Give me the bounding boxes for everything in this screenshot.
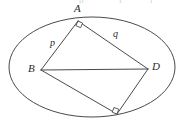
top-crumb-2: i — [119, 0, 122, 5]
vertex-label-d: D — [152, 61, 160, 72]
edge-bc — [41, 70, 117, 114]
diagonal-bd — [41, 69, 148, 70]
top-crumb-3: i — [150, 0, 153, 5]
side-label-q: q — [113, 29, 118, 39]
edge-cd — [117, 69, 148, 114]
geometry-figure: b i i A B D p q — [0, 0, 182, 127]
vertex-label-a: A — [74, 3, 81, 14]
edge-ab — [41, 21, 78, 70]
vertex-label-b: B — [28, 63, 35, 74]
right-angle-marker-c — [112, 107, 119, 114]
side-label-p: p — [50, 38, 55, 48]
